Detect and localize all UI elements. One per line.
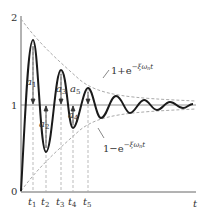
- x-axis-label: t: [193, 198, 198, 209]
- y-tick-0: 0: [11, 186, 17, 197]
- svg-text:a2: a2: [39, 118, 49, 131]
- response-curve: [21, 40, 193, 191]
- upper-envelope-leader: [103, 70, 109, 78]
- svg-text:t4: t4: [68, 196, 77, 209]
- svg-text:t2: t2: [41, 196, 50, 209]
- y-tick-2: 2: [11, 12, 17, 23]
- upper-envelope-label: 1+e−ξωnt: [111, 63, 153, 76]
- lower-envelope-leader: [98, 128, 104, 138]
- time-mark-labels: t1 t2 t3 t4 t5: [28, 196, 92, 209]
- svg-text:t5: t5: [83, 196, 92, 209]
- y-tick-1: 1: [11, 100, 17, 111]
- damped-response-diagram: 2 1 0 t t1 t2 t3 t4 t5 a1 a2 a3 a4 a5 1+…: [0, 0, 210, 218]
- svg-text:t3: t3: [56, 196, 65, 209]
- upper-envelope: [21, 19, 196, 101]
- svg-text:a5: a5: [70, 83, 80, 96]
- lower-envelope-label: 1−e−ξωnt: [103, 141, 145, 154]
- amplitude-labels: a1 a2 a3 a4 a5: [26, 76, 80, 131]
- svg-text:t1: t1: [28, 196, 37, 209]
